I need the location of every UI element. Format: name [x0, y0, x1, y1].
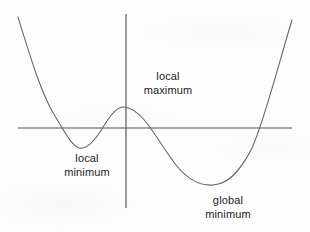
label-global-minimum: global minimum [205, 194, 251, 221]
function-curve [18, 17, 292, 185]
label-local-maximum-line2: maximum [144, 84, 193, 98]
label-global-minimum-line2: minimum [205, 208, 251, 222]
label-local-maximum-line1: local [144, 70, 193, 84]
label-local-minimum-line1: local [64, 152, 110, 166]
label-local-maximum: local maximum [144, 70, 193, 97]
label-local-minimum: local minimum [64, 152, 110, 179]
extrema-diagram: local maximum local minimum global minim… [0, 0, 310, 232]
label-local-minimum-line2: minimum [64, 166, 110, 180]
plot-canvas [0, 0, 310, 232]
label-global-minimum-line1: global [205, 194, 251, 208]
